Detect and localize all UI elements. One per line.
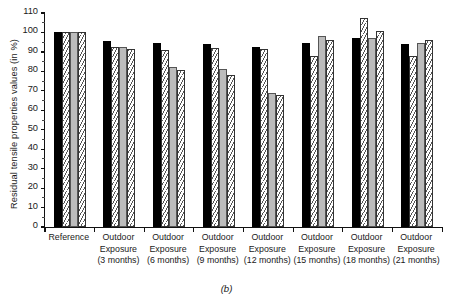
bar-group: [45, 13, 95, 227]
bar: [70, 32, 78, 227]
bar: [276, 95, 284, 227]
bar: [401, 44, 409, 227]
x-axis-label-line: Outdoor: [94, 232, 144, 244]
x-axis-label: OutdoorExposure(3 months): [94, 232, 144, 267]
x-axis-label-line: Exposure: [342, 244, 392, 256]
bar: [227, 75, 235, 227]
bar: [153, 43, 161, 227]
x-axis-label-line: (21 months): [391, 255, 441, 267]
bar-groups: [45, 13, 442, 227]
x-axis-label-line: Exposure: [193, 244, 243, 256]
bar: [302, 43, 310, 227]
x-axis-label-line: (12 months): [243, 255, 293, 267]
bar-group: [293, 13, 343, 227]
x-axis-label-line: Outdoor: [193, 232, 243, 244]
x-axis-label-line: (9 months): [193, 255, 243, 267]
x-axis-label-line: Outdoor: [391, 232, 441, 244]
y-axis-tick-label: 80: [28, 64, 38, 74]
y-axis-tick-label: 50: [28, 123, 38, 133]
bar-group: [244, 13, 294, 227]
bar: [268, 93, 276, 227]
bar: [169, 67, 177, 227]
x-axis-label-line: (6 months): [143, 255, 193, 267]
bar: [103, 41, 111, 227]
x-axis-label-line: Outdoor: [143, 232, 193, 244]
bar: [177, 70, 185, 227]
x-axis-label: OutdoorExposure(12 months): [243, 232, 293, 267]
x-axis-label: OutdoorExposure(15 months): [292, 232, 342, 267]
bar: [409, 56, 417, 227]
x-axis-label-line: Exposure: [292, 244, 342, 256]
x-axis-label-line: Exposure: [391, 244, 441, 256]
x-axis-labels: ReferenceOutdoorExposure(3 months)Outdoo…: [44, 232, 441, 267]
x-axis-label-line: Exposure: [243, 244, 293, 256]
x-axis-tick-mark: [293, 227, 294, 232]
x-axis-tick-mark: [342, 227, 343, 232]
x-axis-label-line: Outdoor: [292, 232, 342, 244]
plot-area: 0102030405060708090100110: [44, 13, 442, 228]
x-axis-label-line: Exposure: [94, 244, 144, 256]
y-axis-tick-label: 30: [28, 162, 38, 172]
x-axis-label: OutdoorExposure(21 months): [391, 232, 441, 267]
x-axis-label-line: Exposure: [143, 244, 193, 256]
x-axis-label-line: Outdoor: [243, 232, 293, 244]
x-axis-tick-mark: [144, 227, 145, 232]
bar: [376, 31, 384, 227]
y-axis-tick-label: 40: [28, 142, 38, 152]
bar-group: [392, 13, 442, 227]
bar-group: [343, 13, 393, 227]
y-axis-tick-label: 100: [22, 25, 38, 35]
x-axis-tick-mark: [243, 227, 244, 232]
x-axis-tick-mark: [94, 227, 95, 232]
figure-caption: (b): [0, 283, 453, 294]
bar: [360, 18, 368, 227]
x-axis-label: OutdoorExposure(6 months): [143, 232, 193, 267]
bar: [203, 44, 211, 227]
bar: [119, 47, 127, 227]
bar: [425, 40, 433, 227]
bar: [127, 49, 135, 227]
bar: [417, 43, 425, 227]
bar: [211, 48, 219, 227]
bar-group: [144, 13, 194, 227]
x-axis-label: OutdoorExposure(9 months): [193, 232, 243, 267]
bar-group: [95, 13, 145, 227]
x-axis-tick-mark: [442, 227, 443, 232]
bar: [368, 38, 376, 227]
y-axis-tick-label: 10: [28, 201, 38, 211]
bar: [310, 56, 318, 227]
x-axis-tick-mark: [193, 227, 194, 232]
x-axis-tick-mark: [44, 227, 45, 232]
bar: [260, 49, 268, 227]
y-axis-title: Residual tensile properties values (in %…: [9, 24, 19, 224]
x-axis-label-line: Reference: [44, 232, 94, 244]
bar: [111, 47, 119, 227]
bar-group: [194, 13, 244, 227]
bar: [252, 47, 260, 227]
x-axis-label-line: (3 months): [94, 255, 144, 267]
y-axis-tick-label: 60: [28, 103, 38, 113]
y-axis-tick-label: 110: [23, 6, 38, 16]
bar: [219, 69, 227, 227]
x-axis-tick-mark: [392, 227, 393, 232]
bar: [352, 38, 360, 227]
figure-panel-b: Residual tensile properties values (in %…: [0, 0, 453, 300]
bar: [54, 32, 62, 227]
x-axis-label-line: (18 months): [342, 255, 392, 267]
y-axis-tick-label: 20: [28, 181, 38, 191]
bar: [318, 36, 326, 227]
x-axis-label: OutdoorExposure(18 months): [342, 232, 392, 267]
y-axis-tick-label: 70: [28, 84, 38, 94]
bar: [161, 50, 169, 227]
bar: [326, 40, 334, 227]
x-axis-label-line: (15 months): [292, 255, 342, 267]
bar: [78, 32, 86, 227]
bar: [62, 32, 70, 227]
x-axis-label: Reference: [44, 232, 94, 267]
y-axis-tick-label: 0: [33, 220, 38, 230]
y-axis-tick-label: 90: [28, 45, 38, 55]
x-axis-label-line: Outdoor: [342, 232, 392, 244]
